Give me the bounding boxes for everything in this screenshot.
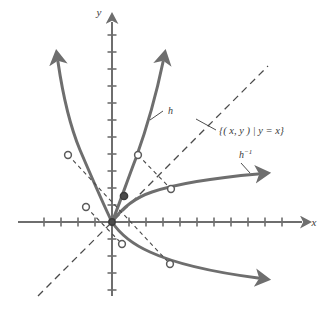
math-figure: y x h {( x, y ) | y = x} h−1 [0, 0, 330, 312]
curve-h-inverse-lower [112, 222, 258, 278]
reflection-connector-2 [138, 155, 171, 189]
point-markers [65, 152, 175, 268]
marker-h-inverse-upper-outer [168, 186, 175, 193]
marker-h-left-inner [83, 204, 90, 211]
curve-h-inverse-label: h−1 [239, 148, 252, 160]
curve-h-inverse-upper [112, 174, 258, 222]
label-leader-lines [150, 111, 250, 173]
marker-h-right-outer [135, 152, 142, 159]
x-axis-label: x [311, 216, 317, 228]
curve-h-inverse-label-exponent: −1 [244, 148, 252, 156]
y-axis-label: y [96, 6, 102, 18]
marker-origin-point [109, 219, 115, 225]
marker-h-inverse-lower-outer [167, 261, 174, 268]
leader-line-identity [196, 119, 216, 130]
marker-h-inverse-lower-inner [119, 241, 126, 248]
leader-line-h-inverse [241, 163, 250, 173]
marker-intersection-point [120, 192, 127, 199]
curve-h-left-branch [58, 62, 112, 222]
marker-h-left-outer [65, 152, 72, 159]
identity-line-label: {( x, y ) | y = x} [219, 125, 285, 137]
curve-h-label: h [168, 105, 173, 116]
